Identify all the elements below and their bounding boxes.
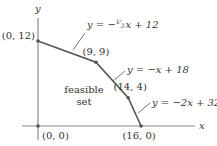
- constraint-3-label: y = −2x + 32: [151, 97, 217, 108]
- region-label-line1: feasible: [64, 84, 104, 95]
- vertex-point: [126, 96, 130, 100]
- vertex-label: (0, 12): [2, 30, 35, 41]
- vertex-label: (0, 0): [42, 130, 69, 141]
- vertex-label: (16, 0): [122, 130, 155, 141]
- x-axis-label: x: [199, 120, 205, 131]
- constraint-2-label: y = −x + 18: [126, 64, 189, 75]
- region-label-line2: set: [76, 96, 91, 107]
- constraint-1-prefix: y = −: [86, 19, 116, 30]
- constraint-1-frac-den: 3: [121, 22, 125, 29]
- vertex-label: (14, 4): [114, 81, 147, 92]
- vertex-point: [139, 124, 143, 128]
- vertex-point: [36, 124, 40, 128]
- vertex-label: (9, 9): [83, 46, 110, 57]
- y-axis-label: y: [34, 3, 41, 14]
- feasible-set-diagram: x y (0, 0)(0, 12)(9, 9)(14, 4)(16, 0) fe…: [0, 0, 217, 146]
- constraint-1-suffix: x + 12: [125, 19, 158, 30]
- vertex-point: [36, 39, 40, 43]
- constraint-3-leader: [138, 103, 150, 113]
- vertex-point: [94, 60, 98, 64]
- constraint-1-label: y = −1⁄3x + 12: [86, 18, 159, 30]
- constraint-2-leader: [113, 71, 125, 81]
